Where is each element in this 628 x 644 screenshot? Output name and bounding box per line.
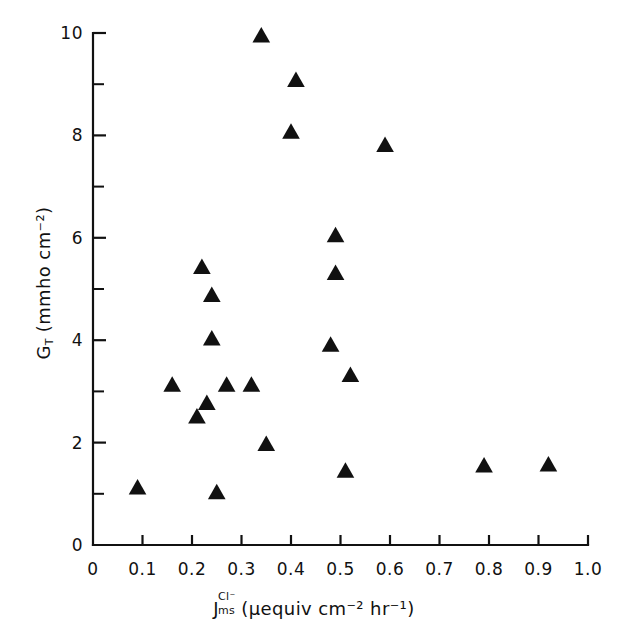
data-point-marker bbox=[208, 484, 226, 499]
y-tick-label: 0 bbox=[72, 535, 83, 555]
x-axis-tick-labels: 00.10.20.30.40.50.60.70.80.91.0 bbox=[87, 559, 602, 579]
y-axis-title: GT (mmho cm⁻²) bbox=[33, 206, 56, 359]
data-point-marker bbox=[475, 457, 493, 472]
data-point-marker bbox=[163, 376, 181, 391]
y-tick-label: 4 bbox=[72, 330, 83, 350]
data-point-marker bbox=[243, 376, 261, 391]
data-point-marker bbox=[203, 330, 221, 345]
y-tick-label: 10 bbox=[60, 23, 83, 43]
data-point-marker bbox=[342, 366, 360, 381]
y-symbol: G bbox=[33, 345, 54, 359]
scatter-plot-figure: 00.10.20.30.40.50.60.70.80.91.0 0246810 … bbox=[0, 0, 628, 644]
y-subscript: T bbox=[43, 338, 56, 345]
data-point-marker bbox=[203, 287, 221, 302]
x-axis-title: JCl⁻ms(μequiv cm⁻² hr⁻¹) bbox=[0, 598, 628, 619]
y-axis-ticks bbox=[93, 33, 106, 494]
y-tick-label: 2 bbox=[72, 433, 83, 453]
data-point-marker bbox=[376, 137, 394, 152]
y-tick-label: 8 bbox=[72, 125, 83, 145]
data-point-marker bbox=[337, 462, 355, 477]
x-tick-label: 0.9 bbox=[524, 559, 553, 579]
axis-lines bbox=[93, 33, 588, 545]
data-point-marker bbox=[327, 227, 345, 242]
x-units: (μequiv cm⁻² hr⁻¹) bbox=[241, 598, 414, 619]
x-tick-label: 0.1 bbox=[128, 559, 157, 579]
data-point-marker bbox=[282, 123, 300, 138]
plot-canvas: 00.10.20.30.40.50.60.70.80.91.0 0246810 bbox=[0, 0, 628, 644]
data-point-marker bbox=[257, 436, 275, 451]
x-tick-label: 0.5 bbox=[326, 559, 355, 579]
data-point-marker bbox=[218, 376, 236, 391]
x-tick-label: 0.8 bbox=[475, 559, 504, 579]
x-tick-label: 0.7 bbox=[425, 559, 454, 579]
data-point-marker bbox=[327, 265, 345, 280]
y-tick-label: 6 bbox=[72, 228, 83, 248]
x-superscript: Cl⁻ bbox=[218, 590, 236, 603]
y-units: (mmho cm⁻²) bbox=[33, 206, 54, 332]
x-tick-label: 1.0 bbox=[574, 559, 603, 579]
x-tick-label: 0.3 bbox=[227, 559, 256, 579]
data-point-markers bbox=[129, 27, 557, 499]
data-point-marker bbox=[287, 72, 305, 87]
data-point-marker bbox=[129, 479, 147, 494]
data-point-marker bbox=[252, 27, 270, 42]
x-axis-ticks bbox=[143, 535, 589, 545]
x-symbol-stack: JCl⁻ms bbox=[213, 598, 241, 619]
data-point-marker bbox=[188, 408, 206, 423]
data-point-marker bbox=[540, 456, 558, 471]
x-tick-label: 0.6 bbox=[376, 559, 405, 579]
data-point-marker bbox=[322, 336, 340, 351]
y-axis-title-wrapper: GT (mmho cm⁻²) bbox=[33, 173, 63, 393]
x-tick-label: 0 bbox=[87, 559, 98, 579]
data-point-marker bbox=[193, 258, 211, 273]
y-axis-tick-labels: 0246810 bbox=[60, 23, 83, 555]
x-tick-label: 0.2 bbox=[178, 559, 207, 579]
x-tick-label: 0.4 bbox=[277, 559, 306, 579]
x-subscript: ms bbox=[218, 604, 235, 617]
data-point-marker bbox=[198, 395, 216, 410]
